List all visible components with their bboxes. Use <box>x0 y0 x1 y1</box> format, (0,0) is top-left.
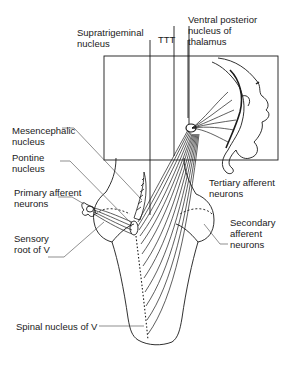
trigeminal-ganglion <box>87 206 94 212</box>
head-inner <box>226 70 242 148</box>
label-tertiary-afferent-neurons: Tertiary afferent neurons <box>209 177 275 199</box>
label-secondary-afferent-neurons: Secondary afferent neurons <box>230 217 275 250</box>
mesencephalic-nucleus <box>134 172 146 220</box>
secondary-fibers <box>138 130 199 334</box>
brainstem-outline <box>94 158 215 345</box>
primary-afferent-fibers <box>94 208 132 234</box>
label-ventral-posterior-nucleus: Ventral posterior nucleus of thalamus <box>188 14 257 47</box>
label-spinal-nucleus-of-v: Spinal nucleus of V <box>16 321 97 332</box>
label-primary-afferent-neurons: Primary afferent neurons <box>14 187 81 209</box>
pons-left-curve <box>96 209 130 214</box>
label-sensory-root-of-v: Sensory root of V <box>14 233 50 255</box>
label-mesencephalic-nucleus: Mesencephalic nucleus <box>12 125 75 147</box>
spinal-nucleus-column <box>136 236 148 340</box>
label-supratrigeminal-nucleus: Supratrigeminal nucleus <box>77 27 144 49</box>
label-ttt: TTT <box>158 34 175 45</box>
label-pontine-nucleus: Pontine nucleus <box>12 152 45 174</box>
